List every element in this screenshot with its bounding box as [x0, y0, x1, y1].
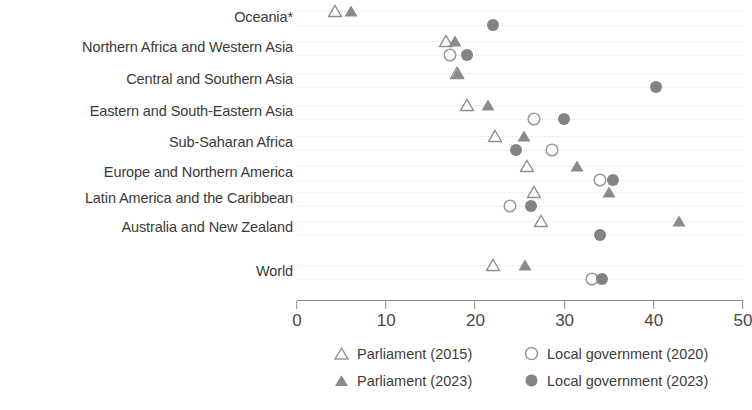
- circle-filled-icon: [523, 199, 538, 214]
- triangle-filled-icon: [480, 98, 495, 112]
- grid-line: [297, 180, 743, 181]
- x-axis-tick: [564, 301, 565, 309]
- triangle-open-icon: [488, 129, 503, 143]
- triangle-open-icon: [533, 214, 548, 228]
- triangle-open-icon: [460, 98, 475, 112]
- category-label: Eastern and South-Eastern Asia: [90, 104, 293, 119]
- circle-filled-icon: [460, 48, 475, 63]
- category-label: Australia and New Zealand: [121, 220, 293, 235]
- triangle-filled-icon: [518, 258, 533, 272]
- legend-row: Parliament (2023) Local government (2023…: [330, 367, 730, 394]
- circle-filled-icon: [648, 80, 663, 95]
- legend-item-parliament-2023: Parliament (2023): [330, 373, 520, 389]
- scatter-chart: Oceania*Northern Africa and Western Asia…: [0, 0, 752, 410]
- grid-line: [297, 119, 743, 120]
- x-axis-tick-label: 50: [734, 311, 752, 331]
- legend-label: Parliament (2023): [357, 373, 472, 389]
- circle-open-icon: [545, 143, 560, 158]
- circle-open-icon: [520, 346, 542, 361]
- x-axis-tick-label: 40: [644, 311, 663, 331]
- circle-open-icon: [443, 48, 458, 63]
- circle-filled-icon: [605, 173, 620, 188]
- triangle-filled-icon: [517, 129, 532, 143]
- x-axis-tick: [385, 301, 386, 309]
- grid-line: [297, 87, 743, 88]
- x-axis-tick-label: 20: [466, 311, 485, 331]
- circle-open-icon: [527, 112, 542, 127]
- chart-legend: Parliament (2015) Local government (2020…: [330, 340, 730, 394]
- x-axis-tick: [475, 301, 476, 309]
- category-label: Latin America and the Caribbean: [85, 191, 293, 206]
- x-axis-tick-label: 0: [292, 311, 301, 331]
- legend-row: Parliament (2015) Local government (2020…: [330, 340, 730, 367]
- category-label: Northern Africa and Western Asia: [82, 40, 293, 55]
- circle-filled-icon: [486, 18, 501, 33]
- grid-line: [297, 55, 743, 56]
- triangle-open-icon: [520, 159, 535, 173]
- category-label: Oceania*: [234, 10, 293, 25]
- circle-open-icon: [503, 199, 518, 214]
- grid-line: [297, 206, 743, 207]
- triangle-open-icon: [330, 347, 352, 360]
- circle-filled-icon: [508, 143, 523, 158]
- circle-filled-icon: [556, 112, 571, 127]
- legend-item-local-government-2023: Local government (2023): [520, 373, 708, 389]
- legend-label: Local government (2023): [547, 373, 708, 389]
- grid-line: [297, 73, 743, 74]
- x-axis-tick: [742, 301, 743, 309]
- grid-line: [297, 192, 743, 193]
- legend-item-parliament-2015: Parliament (2015): [330, 346, 520, 362]
- category-label: Europe and Northern America: [104, 165, 293, 180]
- legend-label: Parliament (2015): [357, 346, 472, 362]
- legend-item-local-government-2020: Local government (2020): [520, 346, 708, 362]
- grid-line: [297, 11, 743, 12]
- triangle-filled-icon: [343, 4, 358, 18]
- triangle-filled-icon: [330, 374, 352, 387]
- legend-label: Local government (2020): [547, 346, 708, 362]
- category-label: Central and Southern Asia: [126, 72, 293, 87]
- grid-line: [297, 25, 743, 26]
- triangle-open-icon: [527, 185, 542, 199]
- plot-area: [297, 0, 743, 300]
- circle-filled-icon: [520, 373, 542, 388]
- triangle-open-icon: [328, 4, 343, 18]
- x-axis-tick-label: 30: [555, 311, 574, 331]
- grid-line: [297, 279, 743, 280]
- x-axis: 01020304050: [297, 300, 743, 311]
- triangle-open-icon: [486, 258, 501, 272]
- triangle-filled-icon: [450, 66, 465, 80]
- category-axis-labels: Oceania*Northern Africa and Western Asia…: [0, 0, 293, 300]
- triangle-filled-icon: [570, 159, 585, 173]
- grid-line: [297, 41, 743, 42]
- grid-line: [297, 105, 743, 106]
- x-axis-tick-label: 10: [377, 311, 396, 331]
- triangle-filled-icon: [447, 34, 462, 48]
- x-axis-tick: [653, 301, 654, 309]
- circle-filled-icon: [593, 228, 608, 243]
- category-label: Sub-Saharan Africa: [169, 135, 293, 150]
- triangle-filled-icon: [671, 214, 686, 228]
- x-axis-tick: [296, 301, 297, 309]
- circle-filled-icon: [595, 272, 610, 287]
- grid-line: [297, 235, 743, 236]
- category-label: World: [256, 264, 293, 279]
